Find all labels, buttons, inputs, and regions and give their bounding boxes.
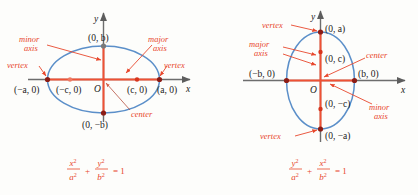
eq-right-equals: = 1 xyxy=(335,166,347,176)
label-center-left-note: center xyxy=(131,109,153,119)
point-covertex-right xyxy=(352,78,357,83)
ellipse-diagram-svg: minor axis major axis vertex vertex cent… xyxy=(0,0,418,195)
svg-text:x2: x2 xyxy=(69,158,77,168)
eq-right-num1-sup: 2 xyxy=(296,158,299,164)
point-vertex-left xyxy=(45,77,50,82)
point-focus-left xyxy=(68,77,72,81)
axis-label-y-left: y xyxy=(93,14,99,24)
eq-left-num2-sup: 2 xyxy=(102,158,105,164)
point-covertex-bottom xyxy=(101,110,106,115)
label-point-covertex-left: (−b, 0) xyxy=(249,69,275,80)
ellipse-figure: minor axis major axis vertex vertex cent… xyxy=(0,0,418,195)
eq-left-plus: + xyxy=(85,166,90,176)
leader-vertex-top xyxy=(291,25,317,31)
label-point-focus-bottom: (0, −c) xyxy=(325,99,350,110)
label-point-vertex-right: (a, 0) xyxy=(157,85,177,96)
leader-major-axis-right-a xyxy=(283,47,316,55)
axis-label-x-right: x xyxy=(400,85,406,95)
svg-text:a2: a2 xyxy=(69,172,77,182)
point-vertex-right xyxy=(157,77,162,82)
label-point-covertex-bottom: (0, −b) xyxy=(82,120,108,131)
label-point-focus-right: (c, 0) xyxy=(127,85,147,96)
eq-right-den2-sup: 2 xyxy=(324,172,327,178)
label-major-axis-right-line2: axis xyxy=(254,48,268,58)
label-vertex-top-note: vertex xyxy=(262,20,283,30)
svg-text:b2: b2 xyxy=(97,172,105,182)
eq-right-den1-sup: 2 xyxy=(296,172,299,178)
axis-label-origin-left: O xyxy=(94,84,101,94)
left-diagram-group: minor axis major axis vertex vertex cent… xyxy=(7,13,191,182)
label-point-vertex-bottom: (0, −a) xyxy=(325,131,350,142)
eq-left-den2-sup: 2 xyxy=(102,172,105,178)
label-point-focus-left: (−c, 0) xyxy=(56,85,81,96)
label-point-covertex-top: (0, b) xyxy=(88,33,109,44)
svg-text:y2: y2 xyxy=(291,158,299,168)
label-point-vertex-top: (0, a) xyxy=(325,24,345,35)
svg-text:y2: y2 xyxy=(97,158,105,168)
point-focus-top xyxy=(318,50,322,54)
label-point-focus-top: (0, c) xyxy=(325,54,345,65)
point-covertex-top xyxy=(101,43,106,48)
label-minor-axis-right-line2: axis xyxy=(374,111,388,121)
label-center-right-note: center xyxy=(366,50,388,60)
svg-text:x2: x2 xyxy=(319,158,327,168)
label-point-vertex-left: (−a, 0) xyxy=(14,85,39,96)
point-vertex-bottom xyxy=(318,126,323,131)
axis-label-y-right: y xyxy=(310,12,316,22)
eq-left-num1-sup: 2 xyxy=(74,158,77,164)
eq-right-num2-sup: 2 xyxy=(324,158,327,164)
leader-vertex-bottom xyxy=(295,130,317,136)
label-vertex-bottom-note: vertex xyxy=(260,131,281,141)
point-covertex-left xyxy=(284,78,289,83)
right-diagram-group: vertex major axis center minor axis vert… xyxy=(243,11,406,182)
eq-left-den1-sup: 2 xyxy=(74,172,77,178)
svg-text:a2: a2 xyxy=(291,172,299,182)
axis-label-x-left: x xyxy=(185,84,191,94)
label-vertex-right-note: vertex xyxy=(164,60,185,70)
label-point-covertex-right: (b, 0) xyxy=(358,69,379,80)
point-focus-bottom xyxy=(318,107,322,111)
eq-left-equals: = 1 xyxy=(113,166,125,176)
label-major-axis-left-line2: axis xyxy=(153,43,167,53)
leader-vertex-left xyxy=(39,66,46,76)
eq-right-plus: + xyxy=(307,166,312,176)
point-vertex-top xyxy=(318,29,323,34)
svg-text:b2: b2 xyxy=(319,172,327,182)
equation-right: y2 a2 + x2 b2 = 1 xyxy=(289,158,347,182)
label-vertex-left-note: vertex xyxy=(7,60,28,70)
axis-label-origin-right: O xyxy=(310,85,317,95)
point-focus-right xyxy=(135,77,139,81)
equation-left: x2 a2 + y2 b2 = 1 xyxy=(67,158,125,182)
label-minor-axis-left-line2: axis xyxy=(24,43,38,53)
